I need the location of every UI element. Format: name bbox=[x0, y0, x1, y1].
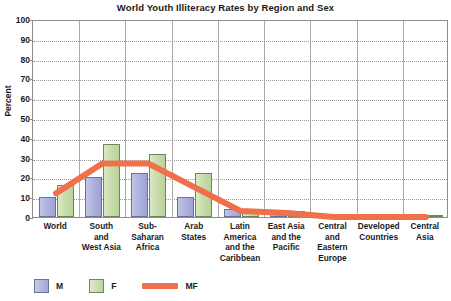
y-tick-label: 20 bbox=[4, 174, 30, 182]
x-tick-label: LatinAmericaand theCaribbean bbox=[217, 221, 263, 263]
plot-area bbox=[32, 20, 448, 218]
y-axis-label: Percent bbox=[3, 66, 13, 136]
legend-item-mf[interactable]: MF bbox=[142, 281, 197, 291]
y-tick-label: 10 bbox=[4, 194, 30, 202]
y-tick-label: 80 bbox=[4, 56, 30, 64]
y-tick-label: 0 bbox=[4, 214, 30, 222]
chart-legend: MFMF bbox=[34, 277, 224, 295]
x-tick-label: DevelopedCountries bbox=[356, 221, 402, 242]
legend-swatch-f bbox=[89, 279, 104, 293]
mf-line-series bbox=[33, 21, 449, 219]
legend-item-f[interactable]: F bbox=[89, 279, 116, 293]
y-tick-label: 90 bbox=[4, 36, 30, 44]
y-tick-label: 30 bbox=[4, 155, 30, 163]
chart-container: World Youth Illiteracy Rates by Region a… bbox=[0, 0, 451, 301]
x-tick-label: Sub-SaharanAfrica bbox=[124, 221, 170, 253]
x-tick-label: CentralandEasternEurope bbox=[309, 221, 355, 263]
legend-label: M bbox=[56, 281, 63, 291]
legend-label: MF bbox=[185, 281, 197, 291]
mf-line-path bbox=[56, 164, 426, 217]
legend-swatch-mf bbox=[142, 283, 178, 289]
x-tick-label: SouthandWest Asia bbox=[78, 221, 124, 253]
legend-label: F bbox=[111, 281, 116, 291]
chart-title: World Youth Illiteracy Rates by Region a… bbox=[0, 2, 451, 13]
legend-swatch-m bbox=[34, 279, 49, 293]
x-tick-label: East Asiaand thePacific bbox=[263, 221, 309, 253]
x-tick-label: ArabStates bbox=[171, 221, 217, 242]
legend-item-m[interactable]: M bbox=[34, 279, 63, 293]
x-axis-labels: WorldSouthandWest AsiaSub-SaharanAfricaA… bbox=[32, 221, 448, 273]
x-tick-label: CentralAsia bbox=[402, 221, 448, 242]
y-tick-label: 100 bbox=[4, 16, 30, 24]
x-tick-label: World bbox=[32, 221, 78, 232]
